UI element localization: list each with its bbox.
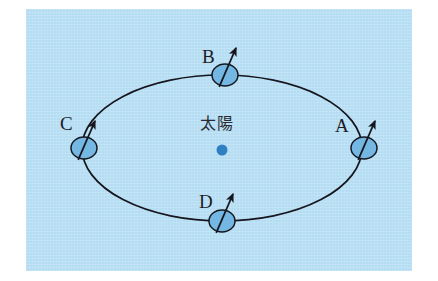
sun-dot <box>217 145 228 156</box>
figure-canvas: 太陽 A B C D <box>0 0 438 281</box>
position-label-b: B <box>202 47 215 66</box>
planet-marker-a <box>351 121 377 160</box>
planet-marker-b <box>212 48 238 87</box>
planet-marker-d <box>209 194 235 233</box>
sun-label: 太陽 <box>200 116 234 132</box>
orbit-diagram <box>0 0 438 281</box>
position-label-a: A <box>335 116 349 135</box>
position-label-c: C <box>60 114 73 133</box>
position-label-d: D <box>199 192 213 211</box>
planet-marker-c <box>71 121 97 160</box>
